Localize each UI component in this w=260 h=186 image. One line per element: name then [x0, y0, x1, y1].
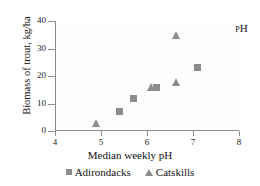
- data-point-triangle: [147, 83, 155, 91]
- chart-figure: Biomass of trout, kg/ha Median weekly pH…: [0, 0, 260, 186]
- x-tick: [239, 131, 240, 136]
- square-marker-icon: [66, 169, 72, 175]
- data-point-triangle: [172, 31, 180, 39]
- x-tick-label: 4: [43, 137, 67, 147]
- x-tick: [147, 131, 148, 136]
- legend-label: Adirondacks: [75, 166, 131, 178]
- y-tick-label: 0: [24, 126, 46, 135]
- data-point-square: [116, 108, 123, 115]
- y-tick: [48, 76, 55, 77]
- x-tick-label: 5: [89, 137, 113, 147]
- x-tick-label: 8: [227, 137, 251, 147]
- data-point-triangle: [172, 78, 180, 86]
- ph-annotation: pH: [235, 22, 248, 34]
- y-tick-label: 20: [24, 71, 46, 80]
- data-point-square: [130, 95, 137, 102]
- x-tick: [193, 131, 194, 136]
- plot-area: [55, 21, 239, 131]
- x-tick-label: 6: [135, 137, 159, 147]
- y-tick: [48, 131, 55, 132]
- y-tick-label: 10: [24, 99, 46, 108]
- y-tick-label: 30: [24, 44, 46, 53]
- data-point-triangle: [92, 119, 100, 127]
- chart-legend: AdirondacksCatskills: [0, 166, 260, 178]
- triangle-marker-icon: [145, 169, 153, 176]
- x-tick: [101, 131, 102, 136]
- legend-item-adirondacks[interactable]: Adirondacks: [66, 166, 131, 178]
- x-tick-label: 7: [181, 137, 205, 147]
- y-tick-label: 40: [24, 16, 46, 25]
- x-tick: [55, 131, 56, 136]
- data-point-square: [194, 64, 201, 71]
- y-tick: [48, 49, 55, 50]
- y-tick: [48, 21, 55, 22]
- x-axis-title: Median weekly pH: [0, 149, 260, 161]
- legend-label: Catskills: [156, 166, 195, 178]
- y-tick: [48, 104, 55, 105]
- legend-item-catskills[interactable]: Catskills: [145, 166, 195, 178]
